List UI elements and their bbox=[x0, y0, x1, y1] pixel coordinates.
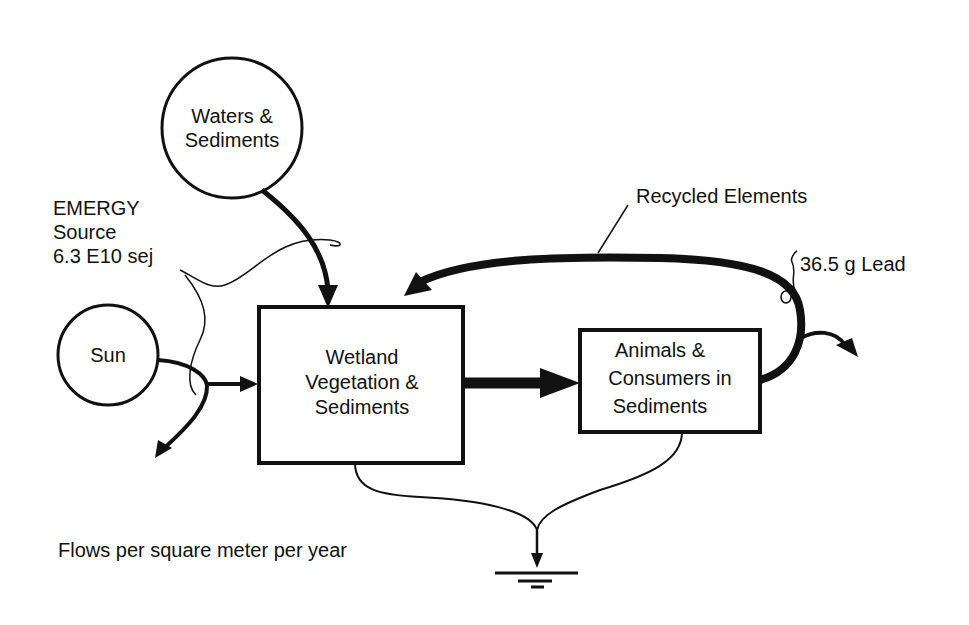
emergy-label-line1: EMERGY bbox=[53, 196, 153, 220]
diagram-canvas bbox=[0, 0, 969, 625]
waters-label-line1: Waters & bbox=[172, 104, 292, 128]
animals-label: Animals & Consumers in Sediments bbox=[582, 336, 758, 420]
export-flow-arrow bbox=[801, 333, 845, 345]
emergy-label-line3: 6.3 E10 sej bbox=[53, 244, 153, 268]
animals-heat-loss bbox=[537, 432, 682, 530]
flows-caption: Flows per square meter per year bbox=[58, 538, 347, 562]
sun-flow-arrow bbox=[158, 360, 207, 450]
animals-label-line3: Sediments bbox=[562, 392, 758, 420]
animals-label-line2: Consumers in bbox=[582, 364, 758, 392]
heat-sink-ground-icon bbox=[495, 573, 578, 587]
emergy-label-line2: Source bbox=[53, 220, 153, 244]
wetland-label: Wetland Vegetation & Sediments bbox=[262, 345, 462, 420]
wetland-label-line2: Vegetation & bbox=[262, 370, 462, 395]
recycled-elements-label: Recycled Elements bbox=[636, 184, 807, 208]
wetland-label-line1: Wetland bbox=[262, 345, 462, 370]
wetland-heat-loss bbox=[355, 463, 537, 530]
lead-flow-label: 36.5 g Lead bbox=[800, 252, 906, 276]
waters-label-line2: Sediments bbox=[172, 128, 292, 152]
animals-label-line1: Animals & bbox=[562, 336, 758, 364]
sun-label: Sun bbox=[68, 343, 148, 367]
waters-label: Waters & Sediments bbox=[172, 104, 292, 152]
wetland-label-line3: Sediments bbox=[262, 395, 462, 420]
emergy-source-label: EMERGY Source 6.3 E10 sej bbox=[53, 196, 153, 268]
